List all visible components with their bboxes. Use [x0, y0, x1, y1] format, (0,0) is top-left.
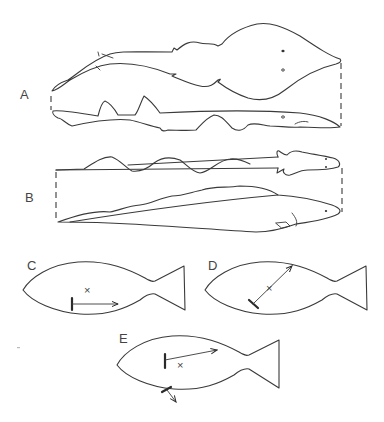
newt-body-upper-line: [128, 157, 278, 165]
arrow-e: [165, 350, 217, 360]
ray-spiracle-icon: [282, 69, 285, 71]
ray-top-view-outline: [52, 24, 341, 100]
fish-c-outline: [23, 262, 185, 315]
panel-label-e: E: [119, 331, 128, 346]
panel-label-d: D: [208, 258, 217, 273]
eel-side-view-outline: [58, 186, 340, 232]
panel-c: C ×: [23, 258, 185, 314]
shark-side-view-outline: [53, 96, 340, 131]
figure-canvas: A B C ×: [0, 0, 384, 422]
newt-eye-right-icon: [325, 166, 327, 168]
eel-eye-icon: [325, 210, 327, 212]
panel-b: B: [25, 151, 342, 232]
arrow-d: [253, 266, 292, 304]
belly-arrow-e: [167, 390, 176, 402]
shark-eye-icon: [282, 116, 285, 118]
newt-head-outline: [277, 151, 340, 175]
newt-body-lower-line: [56, 168, 278, 170]
panel-label-a: A: [20, 87, 29, 102]
ray-eye-icon: [281, 50, 284, 53]
panel-e: E ×: [117, 331, 279, 402]
shark-mouth-line: [295, 121, 308, 124]
panel-label-c: C: [27, 258, 36, 273]
speck: [17, 347, 20, 348]
center-mark-c: ×: [84, 284, 90, 296]
newt-eye-left-icon: [325, 158, 327, 160]
fish-e-outline: [117, 336, 279, 390]
eel-body-line: [70, 195, 278, 222]
panel-label-b: B: [25, 190, 34, 205]
newt-top-view-outline: [56, 157, 250, 173]
center-mark-e: ×: [177, 359, 183, 371]
ray-dorsal-tick: [98, 52, 99, 56]
panel-a: A: [20, 24, 341, 131]
panel-d: D ×: [205, 258, 367, 314]
fish-d-outline: [205, 262, 367, 315]
